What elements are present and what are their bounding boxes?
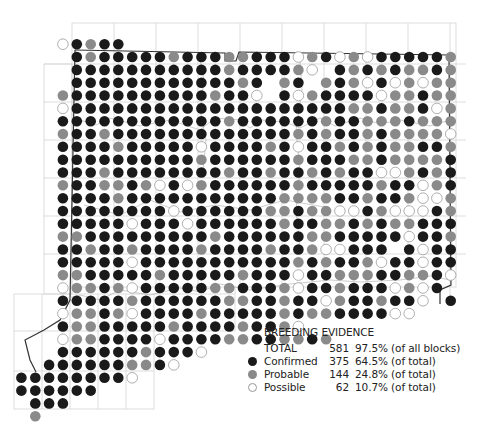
possible-dot-icon bbox=[58, 39, 69, 50]
confirmed-dot-icon bbox=[182, 65, 193, 76]
confirmed-dot-icon bbox=[349, 116, 360, 127]
confirmed-dot-icon bbox=[293, 77, 304, 88]
probable-dot-icon bbox=[72, 334, 83, 345]
confirmed-dot-icon bbox=[210, 321, 221, 332]
confirmed-dot-icon bbox=[155, 231, 166, 242]
legend-count: 62 bbox=[316, 381, 349, 393]
confirmed-dot-icon bbox=[307, 270, 318, 281]
confirmed-dot-icon bbox=[251, 52, 262, 63]
confirmed-dot-icon bbox=[72, 90, 83, 101]
confirmed-dot-icon bbox=[224, 321, 235, 332]
confirmed-dot-icon bbox=[141, 154, 152, 165]
probable-dot-icon bbox=[362, 103, 373, 114]
possible-dot-icon bbox=[196, 347, 207, 358]
confirmed-dot-icon bbox=[293, 244, 304, 255]
confirmed-dot-icon bbox=[321, 142, 332, 153]
confirmed-dot-icon bbox=[16, 385, 27, 396]
confirmed-dot-icon bbox=[418, 142, 429, 153]
probable-dot-icon bbox=[445, 52, 456, 63]
confirmed-dot-icon bbox=[141, 283, 152, 294]
probable-dot-icon bbox=[404, 193, 415, 204]
confirmed-dot-icon bbox=[182, 206, 193, 217]
confirmed-dot-icon bbox=[279, 90, 290, 101]
confirmed-dot-icon bbox=[155, 321, 166, 332]
confirmed-dot-icon bbox=[99, 321, 110, 332]
confirmed-dot-icon bbox=[445, 257, 456, 268]
confirmed-dot-icon bbox=[251, 103, 262, 114]
confirmed-dot-icon bbox=[279, 129, 290, 140]
confirmed-dot-icon bbox=[418, 90, 429, 101]
possible-dot-icon bbox=[418, 180, 429, 191]
confirmed-dot-icon bbox=[127, 347, 138, 358]
confirmed-dot-icon bbox=[58, 321, 69, 332]
confirmed-dot-icon bbox=[169, 129, 180, 140]
confirmed-dot-icon bbox=[72, 180, 83, 191]
probable-dot-icon bbox=[58, 180, 69, 191]
probable-dot-icon bbox=[210, 231, 221, 242]
confirmed-dot-icon bbox=[85, 257, 96, 268]
confirmed-dot-icon bbox=[85, 360, 96, 371]
confirmed-dot-icon bbox=[224, 308, 235, 319]
confirmed-dot-icon bbox=[432, 142, 443, 153]
confirmed-dot-icon bbox=[155, 360, 166, 371]
probable-dot-icon bbox=[224, 52, 235, 63]
confirmed-dot-icon bbox=[210, 270, 221, 281]
confirmed-dot-icon bbox=[16, 373, 27, 384]
probable-dot-icon bbox=[418, 154, 429, 165]
confirmed-dot-icon bbox=[432, 270, 443, 281]
confirmed-dot-icon bbox=[404, 116, 415, 127]
confirmed-dot-icon bbox=[279, 231, 290, 242]
confirmed-dot-icon bbox=[141, 65, 152, 76]
possible-dot-icon bbox=[404, 308, 415, 319]
confirmed-dot-icon bbox=[58, 398, 69, 409]
probable-dot-icon bbox=[376, 180, 387, 191]
confirmed-dot-icon bbox=[72, 360, 83, 371]
confirmed-dot-icon bbox=[265, 308, 276, 319]
confirmed-dot-icon bbox=[58, 219, 69, 230]
probable-dot-icon bbox=[390, 219, 401, 230]
possible-dot-icon bbox=[182, 219, 193, 230]
confirmed-dot-icon bbox=[293, 116, 304, 127]
probable-dot-icon bbox=[335, 167, 346, 178]
confirmed-dot-icon bbox=[210, 129, 221, 140]
confirmed-dot-icon bbox=[85, 142, 96, 153]
confirmed-dot-icon bbox=[265, 129, 276, 140]
confirmed-dot-icon bbox=[113, 321, 124, 332]
confirmed-dot-icon bbox=[224, 103, 235, 114]
confirmed-dot-icon bbox=[307, 257, 318, 268]
confirmed-dot-icon bbox=[349, 257, 360, 268]
possible-dot-icon bbox=[418, 244, 429, 255]
confirmed-dot-icon bbox=[169, 244, 180, 255]
possible-dot-icon bbox=[418, 77, 429, 88]
confirmed-dot-icon bbox=[141, 270, 152, 281]
confirmed-dot-icon bbox=[182, 321, 193, 332]
confirmed-dot-icon bbox=[349, 180, 360, 191]
confirmed-dot-icon bbox=[321, 154, 332, 165]
confirmed-dot-icon bbox=[349, 308, 360, 319]
confirmed-dot-icon bbox=[182, 154, 193, 165]
confirmed-dot-icon bbox=[196, 65, 207, 76]
confirmed-dot-icon bbox=[362, 296, 373, 307]
probable-dot-icon bbox=[418, 129, 429, 140]
probable-dot-icon bbox=[404, 65, 415, 76]
confirmed-dot-icon bbox=[141, 193, 152, 204]
confirmed-dot-icon bbox=[335, 116, 346, 127]
confirmed-dot-icon bbox=[113, 231, 124, 242]
confirmed-dot-icon bbox=[30, 385, 41, 396]
confirmed-dot-icon bbox=[113, 65, 124, 76]
confirmed-dot-icon bbox=[335, 231, 346, 242]
confirmed-dot-icon bbox=[307, 142, 318, 153]
confirmed-dot-icon bbox=[224, 193, 235, 204]
confirmed-dot-icon bbox=[418, 219, 429, 230]
possible-dot-icon bbox=[127, 308, 138, 319]
probable-dot-icon bbox=[335, 270, 346, 281]
possible-dot-icon bbox=[432, 103, 443, 114]
probable-dot-icon bbox=[279, 283, 290, 294]
confirmed-dot-icon bbox=[390, 65, 401, 76]
probable-dot-icon bbox=[113, 142, 124, 153]
confirmed-dot-icon bbox=[85, 347, 96, 358]
legend-total-count: 581 bbox=[316, 342, 349, 354]
confirmed-dot-icon bbox=[390, 52, 401, 63]
probable-dot-icon bbox=[321, 219, 332, 230]
confirmed-dot-icon bbox=[141, 219, 152, 230]
